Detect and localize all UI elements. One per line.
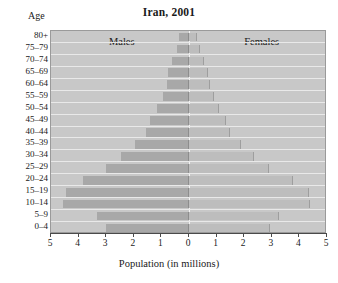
bar-female-35–39 [189, 140, 241, 149]
x-axis-title: Population (in millions) [0, 258, 338, 269]
plot-area: Males Females [50, 30, 326, 233]
bar-male-25–29 [106, 164, 189, 173]
bar-female-55–59 [189, 92, 214, 101]
row-separator [51, 90, 325, 91]
row-separator [51, 185, 325, 186]
bar-male-65–69 [168, 68, 189, 77]
bar-female-0–4 [189, 224, 270, 233]
age-label-5–9: 5–9 [2, 210, 48, 219]
bar-female-50–54 [189, 104, 219, 113]
row-separator [51, 149, 325, 150]
x-tick [188, 233, 189, 237]
row-separator [51, 137, 325, 138]
bar-male-45–49 [150, 116, 189, 125]
x-tick-label-7: 2 [235, 238, 251, 248]
age-label-65–69: 65–69 [2, 67, 48, 76]
bar-female-65–69 [189, 68, 208, 77]
bar-female-80+ [189, 33, 197, 42]
x-tick-label-10: 5 [318, 238, 334, 248]
age-label-75–79: 75–79 [2, 43, 48, 52]
bar-male-70–74 [172, 57, 189, 66]
bar-female-45–49 [189, 116, 226, 125]
bar-male-5–9 [97, 212, 189, 221]
row-separator [51, 221, 325, 222]
x-tick [78, 233, 79, 237]
x-tick-label-1: 4 [70, 238, 86, 248]
bar-male-20–24 [83, 176, 189, 185]
row-separator [51, 102, 325, 103]
age-label-10–14: 10–14 [2, 198, 48, 207]
age-axis-caption: Age [28, 10, 45, 21]
bar-male-35–39 [135, 140, 189, 149]
population-pyramid-chart: Iran, 2001 Age 80+75–7970–7465–6960–6455… [0, 0, 338, 283]
bar-male-55–59 [163, 92, 189, 101]
row-separator [51, 209, 325, 210]
bar-female-30–34 [189, 152, 254, 161]
age-label-30–34: 30–34 [2, 150, 48, 159]
x-tick [326, 233, 327, 237]
bar-male-15–19 [66, 188, 189, 197]
age-label-60–64: 60–64 [2, 79, 48, 88]
age-label-80+: 80+ [2, 31, 48, 40]
x-tick-label-2: 3 [97, 238, 113, 248]
age-label-70–74: 70–74 [2, 55, 48, 64]
row-separator [51, 173, 325, 174]
bar-female-40–44 [189, 128, 230, 137]
row-separator [51, 54, 325, 55]
age-label-15–19: 15–19 [2, 186, 48, 195]
bar-female-70–74 [189, 57, 204, 66]
row-separator [51, 197, 325, 198]
x-tick-label-9: 4 [290, 238, 306, 248]
age-label-25–29: 25–29 [2, 162, 48, 171]
bar-male-50–54 [157, 104, 189, 113]
age-tick-labels: 80+75–7970–7465–6960–6455–5950–5445–4940… [0, 30, 48, 233]
x-tick [133, 233, 134, 237]
x-tick-label-8: 3 [263, 238, 279, 248]
x-tick [160, 233, 161, 237]
bar-male-75–79 [177, 45, 189, 54]
age-label-35–39: 35–39 [2, 138, 48, 147]
bar-female-15–19 [189, 188, 309, 197]
x-tick-label-4: 1 [152, 238, 168, 248]
age-label-40–44: 40–44 [2, 127, 48, 136]
x-axis-ticks: 54321012345 [50, 233, 326, 253]
bar-female-60–64 [189, 80, 210, 89]
bar-male-0–4 [106, 224, 189, 233]
bar-male-80+ [179, 33, 189, 42]
x-tick [105, 233, 106, 237]
bar-female-10–14 [189, 200, 310, 209]
x-tick [298, 233, 299, 237]
age-label-20–24: 20–24 [2, 174, 48, 183]
bar-female-5–9 [189, 212, 279, 221]
x-tick [243, 233, 244, 237]
chart-title: Iran, 2001 [0, 6, 338, 18]
x-tick-label-6: 1 [208, 238, 224, 248]
bar-male-60–64 [167, 80, 189, 89]
age-label-0–4: 0–4 [2, 222, 48, 231]
x-tick [271, 233, 272, 237]
x-tick-label-5: 0 [180, 238, 196, 248]
age-label-55–59: 55–59 [2, 91, 48, 100]
x-tick-label-0: 5 [42, 238, 58, 248]
bar-female-20–24 [189, 176, 293, 185]
x-tick [216, 233, 217, 237]
row-separator [51, 161, 325, 162]
row-separator [51, 42, 325, 43]
x-tick [50, 233, 51, 237]
age-label-50–54: 50–54 [2, 103, 48, 112]
age-label-45–49: 45–49 [2, 115, 48, 124]
row-separator [51, 78, 325, 79]
bar-male-40–44 [146, 128, 189, 137]
row-separator [51, 114, 325, 115]
row-separator [51, 66, 325, 67]
bar-male-10–14 [63, 200, 189, 209]
x-tick-label-3: 2 [125, 238, 141, 248]
bar-female-25–29 [189, 164, 269, 173]
bar-female-75–79 [189, 45, 200, 54]
bar-male-30–34 [121, 152, 189, 161]
row-separator [51, 126, 325, 127]
